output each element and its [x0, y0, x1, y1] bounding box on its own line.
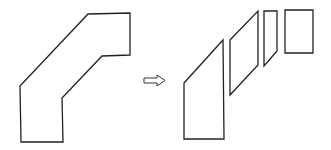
piece-narrow-quad: [264, 11, 277, 66]
piece-top-rectangle: [285, 10, 313, 53]
right-arrow-icon: [144, 75, 165, 86]
piece-bottom-trapezoid: [184, 40, 224, 139]
original-bent-shape: [20, 13, 130, 142]
piece-parallelogram: [230, 11, 258, 95]
diagram-canvas: [0, 0, 331, 150]
diagram-svg: [0, 0, 331, 150]
